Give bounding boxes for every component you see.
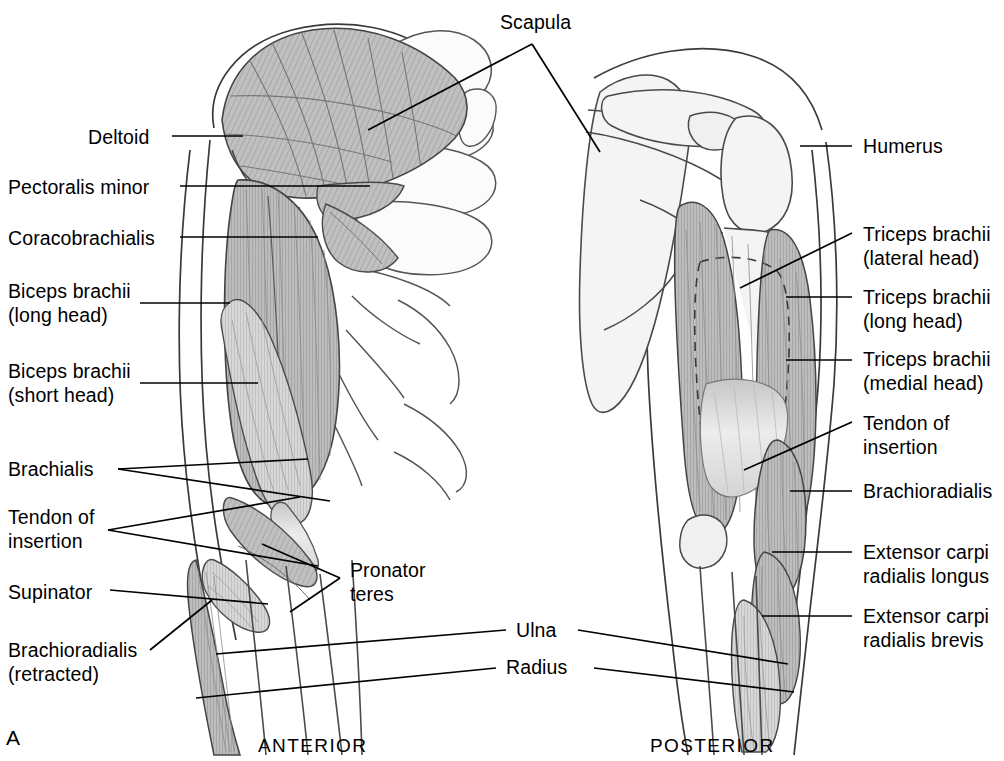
- label-line: (short head): [8, 383, 131, 407]
- label-line: (medial head): [863, 371, 991, 395]
- label-ulna: Ulna: [516, 618, 557, 642]
- label-triceps-brachii-lateral: Triceps brachii(lateral head): [863, 222, 991, 270]
- label-line: Brachioradialis: [863, 479, 992, 503]
- anterior-forearm-bones: [246, 560, 362, 755]
- label-line: Extensor carpi: [863, 540, 989, 564]
- label-line: Ulna: [516, 618, 557, 642]
- label-tendon-of-insertion: Tendon ofinsertion: [863, 411, 950, 459]
- label-line: (lateral head): [863, 246, 991, 270]
- label-radius: Radius: [506, 655, 567, 679]
- label-extensor-carpi-radialis-longus: Extensor carpiradialis longus: [863, 540, 989, 588]
- label-line: teres: [350, 582, 426, 606]
- label-line: insertion: [8, 529, 95, 553]
- label-coracobrachialis: Coracobrachialis: [8, 226, 155, 250]
- label-triceps-brachii-medial: Triceps brachii(medial head): [863, 347, 991, 395]
- label-line: Tendon of: [863, 411, 950, 435]
- label-biceps-brachii-short: Biceps brachii(short head): [8, 359, 131, 407]
- label-brachialis: Brachialis: [8, 457, 94, 481]
- label-line: Pronator: [350, 558, 426, 582]
- anatomy-figure: DeltoidPectoralis minorCoracobrachialisB…: [0, 0, 1004, 761]
- olecranon-bone: [680, 515, 727, 568]
- caption-anterior: ANTERIOR: [258, 735, 367, 757]
- label-triceps-brachii-long: Triceps brachii(long head): [863, 285, 991, 333]
- posterior-view: [580, 49, 837, 755]
- label-line: Biceps brachii: [8, 359, 131, 383]
- label-line: Tendon of: [8, 505, 95, 529]
- label-biceps-brachii-long: Biceps brachii(long head): [8, 279, 131, 327]
- label-brachioradialis: Brachioradialis: [863, 479, 992, 503]
- label-line: Radius: [506, 655, 567, 679]
- label-humerus: Humerus: [863, 134, 943, 158]
- label-line: (long head): [863, 309, 991, 333]
- label-line: Coracobrachialis: [8, 226, 155, 250]
- label-line: Triceps brachii: [863, 285, 991, 309]
- label-line: Supinator: [8, 580, 92, 604]
- label-scapula: Scapula: [500, 10, 571, 34]
- label-extensor-carpi-radialis-brevis: Extensor carpiradialis brevis: [863, 604, 989, 652]
- label-line: radialis longus: [863, 564, 989, 588]
- label-brachioradialis-retracted: Brachioradialis(retracted): [8, 638, 137, 686]
- label-deltoid: Deltoid: [88, 125, 149, 149]
- label-line: Brachialis: [8, 457, 94, 481]
- lower-ribs: [330, 268, 466, 500]
- label-line: Extensor carpi: [863, 604, 989, 628]
- label-line: insertion: [863, 435, 950, 459]
- label-line: Triceps brachii: [863, 347, 991, 371]
- label-tendon-of-insertion: Tendon ofinsertion: [8, 505, 95, 553]
- label-pectoralis-minor: Pectoralis minor: [8, 175, 149, 199]
- label-line: (long head): [8, 303, 131, 327]
- label-line: (retracted): [8, 662, 137, 686]
- leader-scapula-b: [532, 44, 600, 152]
- anterior-view: [179, 24, 496, 755]
- label-line: Brachioradialis: [8, 638, 137, 662]
- label-line: Triceps brachii: [863, 222, 991, 246]
- label-pronator-teres: Pronatorteres: [350, 558, 426, 606]
- label-line: Deltoid: [88, 125, 149, 149]
- caption-posterior: POSTERIOR: [650, 735, 775, 757]
- label-line: radialis brevis: [863, 628, 989, 652]
- label-line: Scapula: [500, 10, 571, 34]
- label-line: Biceps brachii: [8, 279, 131, 303]
- label-line: Humerus: [863, 134, 943, 158]
- leader-radius-left: [196, 668, 496, 698]
- label-supinator: Supinator: [8, 580, 92, 604]
- anatomy-illustration: [0, 0, 1004, 761]
- leader-ulna-left: [216, 630, 506, 654]
- label-line: Pectoralis minor: [8, 175, 149, 199]
- panel-letter: A: [6, 726, 20, 750]
